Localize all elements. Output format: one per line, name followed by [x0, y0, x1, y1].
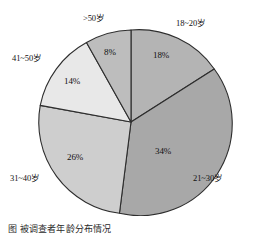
pie-value-18-20: 18%	[153, 50, 169, 60]
pie-label-21-30: 21~30岁	[193, 171, 223, 183]
pie-label-over-50: >50岁	[83, 11, 105, 23]
pie-value-21-30: 34%	[155, 146, 171, 156]
figure-caption: 图 被调查者年龄分布情况	[0, 224, 263, 234]
pie-value-over-50: 8%	[104, 47, 116, 57]
pie-value-41-50: 14%	[64, 76, 80, 86]
figure-caption-text: 图 被调查者年龄分布情况	[8, 224, 112, 234]
pie-chart: 18% 34% 26% 14% 8% 18~20岁 21~30岁 31~40岁 …	[0, 0, 263, 216]
pie-label-18-20: 18~20岁	[176, 16, 206, 28]
pie-label-31-40: 31~40岁	[10, 171, 40, 183]
pie-label-41-50: 41~50岁	[12, 51, 42, 63]
pie-chart-figure: 18% 34% 26% 14% 8% 18~20岁 21~30岁 31~40岁 …	[0, 0, 263, 234]
pie-slice-31-40[interactable]	[39, 105, 131, 213]
pie-value-31-40: 26%	[67, 152, 83, 162]
pie-chart-svg	[0, 0, 263, 216]
